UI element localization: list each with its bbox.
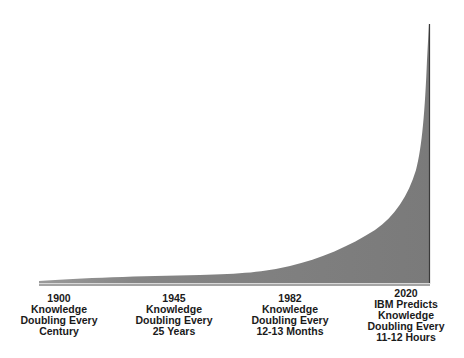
annotation-1900-line3: Century bbox=[9, 326, 109, 337]
annotation-1945: 1945 Knowledge Doubling Every 25 Years bbox=[124, 293, 224, 337]
annotation-1982-line3: 12-13 Months bbox=[240, 326, 340, 337]
annotation-1900: 1900 Knowledge Doubling Every Century bbox=[9, 293, 109, 337]
annotation-1945-line3: 25 Years bbox=[124, 326, 224, 337]
annotation-2020: 2020 IBM Predicts Knowledge Doubling Eve… bbox=[356, 288, 456, 343]
annotation-1982: 1982 Knowledge Doubling Every 12-13 Mont… bbox=[240, 293, 340, 337]
knowledge-growth-area bbox=[39, 23, 430, 283]
annotation-2020-line4: 11-12 Hours bbox=[356, 332, 456, 343]
